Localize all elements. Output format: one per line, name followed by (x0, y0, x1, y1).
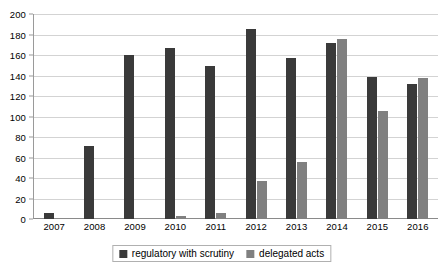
y-tick-label-20: 20 (15, 193, 26, 204)
x-tick-label-2012: 2012 (245, 221, 267, 232)
bar-2011-series-1 (205, 66, 215, 219)
legend-item-1: regulatory with scrutiny (119, 248, 234, 259)
bar-2011-series-2 (216, 213, 226, 219)
legend-swatch-icon-2 (246, 250, 254, 258)
bar-2010-series-1 (165, 48, 175, 219)
bar-2015-series-2 (378, 111, 388, 219)
bar-group-2007 (34, 14, 74, 219)
bar-2012-series-1 (246, 29, 256, 219)
y-tick-label-200: 200 (10, 9, 26, 20)
y-tick-label-40: 40 (15, 173, 26, 184)
bar-2016-series-2 (418, 78, 428, 219)
chart-legend: regulatory with scrutinydelegated acts (112, 245, 331, 262)
bar-chart: 020406080100120140160180200 200720082009… (0, 0, 443, 273)
y-tick-label-100: 100 (10, 111, 26, 122)
bar-group-2015 (357, 14, 397, 219)
x-axis: 2007200820092010201120122013201420152016 (34, 221, 438, 237)
gridline-0 (34, 219, 438, 220)
y-tick-label-140: 140 (10, 70, 26, 81)
x-tick-label-2015: 2015 (367, 221, 389, 232)
x-tick-label-2016: 2016 (407, 221, 429, 232)
y-tick-label-0: 0 (21, 214, 26, 225)
x-tick-label-2009: 2009 (124, 221, 146, 232)
bar-2010-series-2 (176, 216, 186, 219)
bar-group-2014 (317, 14, 357, 219)
x-tick-label-2011: 2011 (205, 221, 226, 232)
bar-group-2011 (196, 14, 236, 219)
x-tick-label-2008: 2008 (84, 221, 106, 232)
y-tick-label-180: 180 (10, 29, 26, 40)
bar-2012-series-2 (257, 181, 267, 219)
y-tick-label-120: 120 (10, 91, 26, 102)
bar-2009-series-1 (124, 55, 134, 219)
bar-2008-series-1 (84, 146, 94, 219)
bar-2016-series-1 (407, 84, 417, 219)
bar-2013-series-2 (297, 162, 307, 219)
x-tick-label-2014: 2014 (326, 221, 348, 232)
bar-group-2009 (115, 14, 155, 219)
bars-layer (34, 14, 438, 219)
x-tick-label-2007: 2007 (43, 221, 65, 232)
legend-item-2: delegated acts (246, 248, 324, 259)
y-tick-label-60: 60 (15, 152, 26, 163)
y-axis: 020406080100120140160180200 (0, 14, 30, 219)
bar-group-2013 (276, 14, 316, 219)
bar-2013-series-1 (286, 58, 296, 219)
legend-label-2: delegated acts (259, 248, 324, 259)
bar-2007-series-1 (44, 213, 54, 219)
bar-2015-series-1 (367, 77, 377, 219)
y-tick-label-80: 80 (15, 132, 26, 143)
x-tick-label-2013: 2013 (286, 221, 308, 232)
bar-group-2010 (155, 14, 195, 219)
legend-label-1: regulatory with scrutiny (132, 248, 234, 259)
y-tick-label-160: 160 (10, 50, 26, 61)
x-tick-label-2010: 2010 (165, 221, 187, 232)
bar-group-2008 (74, 14, 114, 219)
bar-2014-series-1 (326, 43, 336, 219)
bar-2014-series-2 (337, 39, 347, 219)
bar-group-2012 (236, 14, 276, 219)
legend-swatch-icon-1 (119, 250, 127, 258)
bar-group-2016 (398, 14, 438, 219)
